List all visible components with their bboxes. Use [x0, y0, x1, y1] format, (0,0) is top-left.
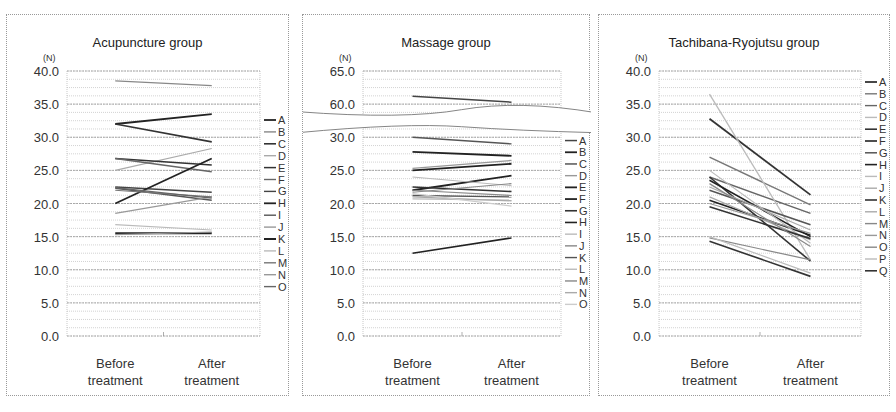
y-tick-label: 30.0	[626, 130, 651, 145]
legend-label: A	[879, 76, 887, 88]
legend-label: E	[879, 123, 886, 135]
y-tick-label: 10.0	[330, 263, 355, 278]
y-tick-label: 5.0	[633, 296, 651, 311]
series-line-c	[413, 137, 512, 144]
svg-text:After: After	[797, 356, 825, 371]
svg-text:treatment: treatment	[783, 373, 838, 388]
series-line-j	[115, 197, 212, 214]
svg-text:treatment: treatment	[484, 373, 539, 388]
y-tick-label: 40.0	[626, 64, 651, 79]
legend-label: M	[879, 218, 888, 230]
y-tick-label: 40.0	[34, 64, 59, 79]
y-tick-label: 35.0	[626, 97, 651, 112]
legend-label: N	[579, 287, 587, 299]
y-tick-label: 10.0	[34, 263, 59, 278]
y-tick-label: 5.0	[337, 296, 355, 311]
legend-label: P	[879, 253, 886, 265]
legend-label: B	[579, 146, 586, 158]
legend-label: D	[579, 170, 587, 182]
series-line-q	[710, 241, 811, 276]
svg-text:treatment: treatment	[88, 373, 143, 388]
legend-label: C	[879, 100, 887, 112]
series-line-d	[710, 94, 811, 260]
legend-label: J	[278, 221, 284, 233]
legend-label: O	[879, 241, 888, 253]
series-line-a	[413, 96, 512, 102]
legend-label: N	[278, 269, 286, 281]
svg-text:Before: Before	[96, 356, 134, 371]
svg-text:treatment: treatment	[682, 373, 737, 388]
series-line-a	[710, 119, 811, 195]
chart-panel-tachibana-ryojutsu: Tachibana-Ryojutsu group 0.05.010.015.02…	[598, 14, 890, 396]
y-tick-label: 15.0	[330, 230, 355, 245]
legend-label: M	[579, 275, 588, 287]
legend-label: J	[879, 182, 885, 194]
legend-label: N	[879, 229, 887, 241]
y-tick-label: 30.0	[330, 130, 355, 145]
y-tick-label: 25.0	[330, 163, 355, 178]
y-tick-label: 60.0	[330, 97, 355, 112]
y-tick-label: 20.0	[330, 197, 355, 212]
legend-label: E	[579, 181, 586, 193]
legend-label: F	[278, 174, 285, 186]
y-tick-label: 0.0	[41, 329, 59, 344]
svg-text:After: After	[198, 356, 226, 371]
legend-label: O	[278, 281, 287, 293]
legend-label: G	[278, 185, 287, 197]
legend-label: H	[579, 216, 587, 228]
legend-label: K	[879, 194, 887, 206]
legend-label: A	[278, 114, 286, 126]
y-tick-label: 25.0	[626, 163, 651, 178]
chart-panel-acupuncture: Acupuncture group 0.05.010.015.020.025.0…	[6, 14, 289, 396]
y-tick-label: 30.0	[34, 130, 59, 145]
legend-label: L	[579, 263, 585, 275]
svg-text:Before: Before	[690, 356, 728, 371]
legend-label: I	[278, 209, 281, 221]
legend-label: F	[879, 135, 886, 147]
series-line-h	[413, 238, 512, 253]
series-line-c	[115, 124, 212, 142]
svg-text:treatment: treatment	[184, 373, 239, 388]
y-tick-label: 65.0	[330, 64, 355, 79]
series-line-b	[115, 81, 212, 86]
legend-label: A	[579, 135, 587, 147]
legend-label: Q	[879, 265, 888, 277]
legend-label: I	[879, 170, 882, 182]
legend-label: C	[579, 158, 587, 170]
series-line-a	[115, 114, 212, 124]
legend-label: B	[879, 88, 886, 100]
y-tick-label: 15.0	[34, 230, 59, 245]
legend-label: E	[278, 162, 285, 174]
svg-text:(N): (N)	[339, 53, 352, 63]
y-tick-label: 0.0	[633, 329, 651, 344]
legend-label: G	[579, 205, 588, 217]
series-line-m	[710, 184, 811, 247]
svg-text:(N): (N)	[43, 53, 56, 63]
y-tick-label: 20.0	[34, 197, 59, 212]
legend-label: J	[579, 240, 585, 252]
legend-label: F	[579, 193, 586, 205]
y-tick-label: 15.0	[626, 230, 651, 245]
legend-label: L	[278, 245, 284, 257]
svg-text:After: After	[498, 356, 526, 371]
legend-label: B	[278, 126, 285, 138]
chart-plot: 0.05.010.015.020.025.030.060.065.0(N)Bef…	[303, 15, 591, 397]
legend-label: D	[278, 150, 286, 162]
legend-label: D	[879, 111, 887, 123]
legend-label: H	[879, 159, 887, 171]
y-tick-label: 10.0	[626, 263, 651, 278]
chart-plot: 0.05.010.015.020.025.030.035.040.0(N)Bef…	[7, 15, 290, 397]
legend-label: H	[278, 197, 286, 209]
series-line-l	[115, 225, 212, 230]
legend-label: G	[879, 147, 888, 159]
y-tick-label: 5.0	[41, 296, 59, 311]
y-tick-label: 20.0	[626, 197, 651, 212]
y-tick-label: 0.0	[337, 329, 355, 344]
chart-plot: 0.05.010.015.020.025.030.035.040.0(N)Bef…	[599, 15, 891, 397]
series-line-h	[710, 200, 811, 235]
legend-label: L	[879, 206, 885, 218]
chart-panel-massage: Massage group 0.05.010.015.020.025.030.0…	[302, 14, 590, 396]
legend-label: K	[278, 233, 286, 245]
legend-label: O	[579, 298, 588, 310]
y-tick-label: 25.0	[34, 163, 59, 178]
